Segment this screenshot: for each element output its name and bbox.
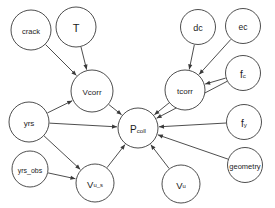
edge-fy-to-Pcoll [159,123,226,129]
node-yrs_obs[interactable]: yrs_obs [12,151,48,187]
node-Vcorr[interactable]: Vcorr [71,70,113,112]
node-dc[interactable]: dc [181,10,216,45]
arrow-head-icon [205,81,210,85]
edge-yrs-to-Pcoll [49,123,117,129]
node-circle-yrs_obs [12,151,48,187]
bayesian-network-diagram: crackTdcecfcVcorrtcorryrsfyPcollgeometry… [0,0,275,208]
edge-dc-to-tcorr [188,45,194,70]
node-V_u[interactable]: Vu [162,165,200,203]
graph-canvas: crackTdcecfcVcorrtcorryrsfyPcollgeometry… [0,0,275,208]
node-circle-fc [226,56,261,91]
node-Pcoll[interactable]: Pcoll [118,108,158,148]
arrow-head-icon [159,124,164,128]
node-circle-ec [226,9,261,44]
node-circle-V_u_s [76,164,114,202]
edge-T-to-Vcorr [81,47,88,70]
node-circle-T [56,7,96,47]
edge-V_u-to-Pcoll [151,145,169,169]
node-circle-fy [227,105,262,140]
node-circle-Vcorr [71,70,113,112]
node-circle-geometry [228,148,263,183]
node-fc[interactable]: fc [226,56,261,91]
node-circle-V_u [162,165,200,203]
node-V_u_s[interactable]: Vu_s [76,164,114,202]
node-ec[interactable]: ec [226,9,261,44]
node-circle-tcorr [165,70,205,110]
edge-yrs_obs-to-V_u_s [48,173,75,180]
node-crack[interactable]: crack [11,10,51,50]
edge-yrs-to-Vcorr [47,101,72,113]
node-circle-dc [181,10,216,45]
node-geometry[interactable]: geometry [228,148,263,183]
edge-geometry-to-Pcoll [158,135,228,160]
edge-V_u_s-to-Pcoll [107,145,125,168]
edge-Vcorr-to-Pcoll [109,104,122,114]
node-tcorr[interactable]: tcorr [165,70,205,110]
node-circle-crack [11,10,51,50]
edge-crack-to-Vcorr [46,45,77,76]
node-circle-Pcoll [118,108,158,148]
arrow-head-icon [151,145,156,150]
nodes-layer: crackTdcecfcVcorrtcorryrsfyPcollgeometry… [9,7,263,203]
node-yrs[interactable]: yrs [9,102,49,142]
arrow-head-icon [188,64,192,69]
arrow-head-icon [158,135,163,139]
node-circle-yrs [9,102,49,142]
arrow-head-icon [70,176,75,180]
edge-yrs-to-V_u_s [44,136,80,170]
node-T[interactable]: T [56,7,96,47]
node-fy[interactable]: fy [227,105,262,140]
arrow-head-icon [112,124,117,128]
